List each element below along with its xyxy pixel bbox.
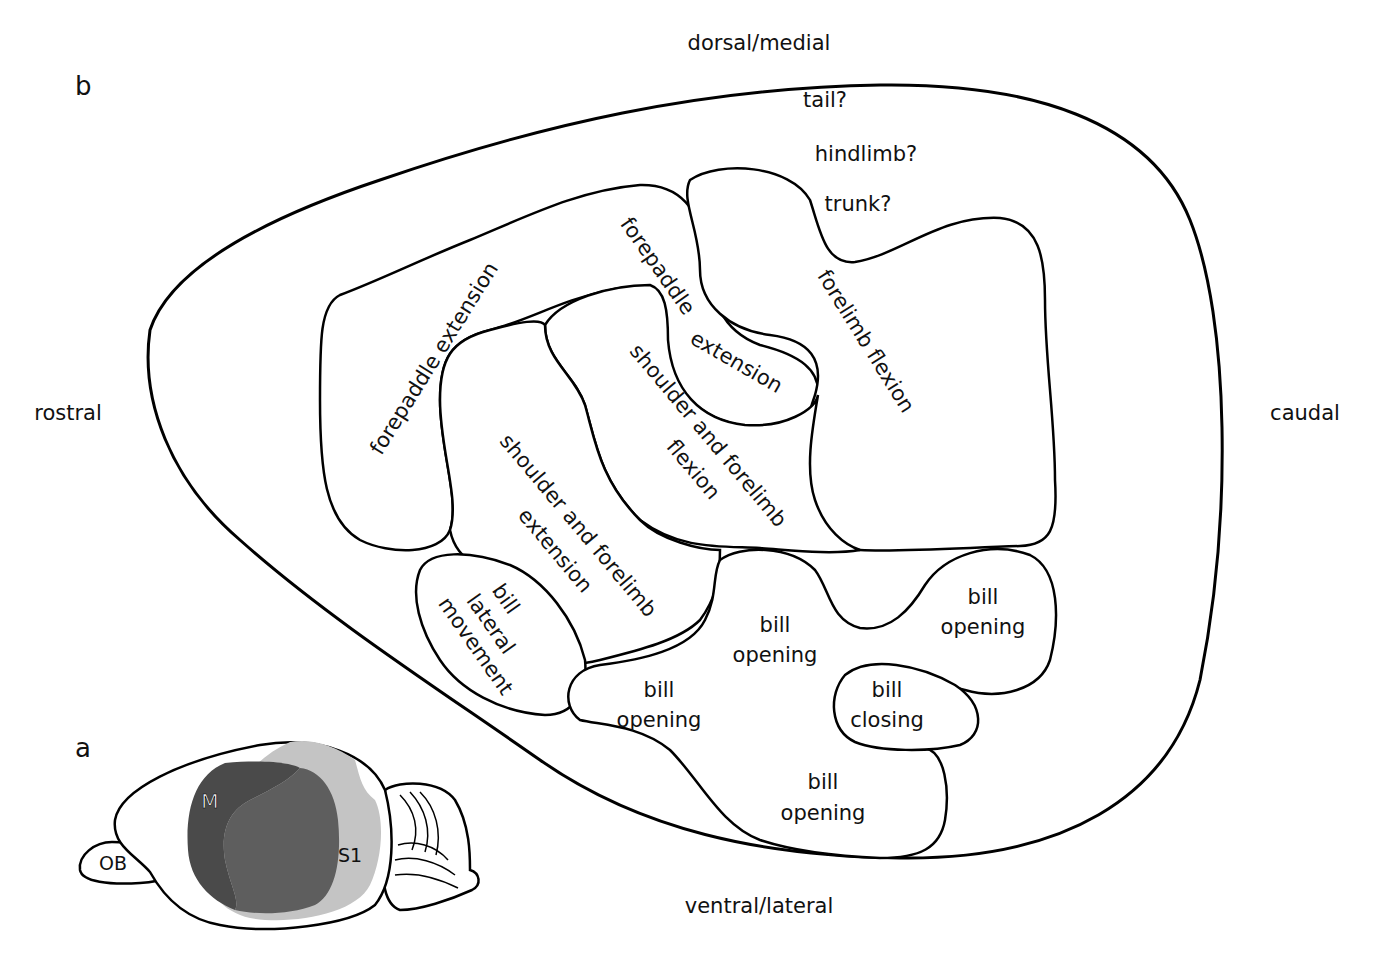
panel-label-b: b — [75, 71, 92, 101]
orientation-caudal: caudal — [1270, 401, 1340, 425]
label-bill-opening-bottom-1: bill — [808, 770, 839, 794]
label-bill-opening-right-1: bill — [968, 585, 999, 609]
brain-inset: OB M S1 — [80, 741, 479, 929]
label-bill-opening-left-1: bill — [644, 678, 675, 702]
orientation-dorsal-medial: dorsal/medial — [688, 31, 831, 55]
label-bill-opening-bottom-2: opening — [781, 801, 866, 825]
orientation-rostral: rostral — [34, 401, 102, 425]
label-bill-closing-1: bill — [872, 678, 903, 702]
label-hindlimb: hindlimb? — [815, 142, 917, 166]
orientation-ventral-lateral: ventral/lateral — [685, 894, 834, 918]
label-s1: S1 — [338, 844, 362, 866]
label-bill-opening-left-2: opening — [617, 708, 702, 732]
label-m: M — [201, 789, 218, 813]
label-ob: OB — [99, 852, 127, 874]
label-trunk: trunk? — [825, 192, 892, 216]
label-bill-opening-right-2: opening — [941, 615, 1026, 639]
label-tail: tail? — [803, 88, 847, 112]
label-bill-opening-center-1: bill — [760, 613, 791, 637]
panel-label-a: a — [75, 733, 91, 763]
platypus-motor-map-figure: dorsal/medial ventral/lateral rostral ca… — [0, 0, 1379, 969]
label-bill-closing-2: closing — [850, 708, 924, 732]
label-bill-opening-center-2: opening — [733, 643, 818, 667]
